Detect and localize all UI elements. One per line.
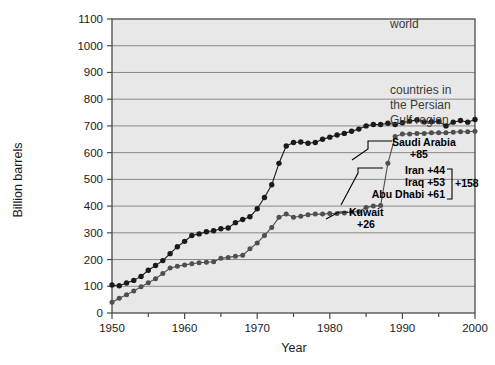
world-point (262, 195, 267, 200)
gulf-point (458, 129, 463, 134)
world-point (472, 117, 477, 122)
gulf-point (204, 260, 209, 265)
y-tick-label-400: 400 (84, 200, 103, 212)
annotation-abu-dhabi: Abu Dhabi +61 (372, 188, 445, 200)
y-tick-label-300: 300 (84, 227, 103, 239)
gulf-point (465, 129, 470, 134)
annotation-gulf-line2: the Persian (390, 98, 451, 112)
world-point (327, 134, 332, 139)
y-axis-title: Billion barrels (11, 142, 25, 217)
gulf-point (117, 296, 122, 301)
annotation-gulf-line1: countries in (390, 83, 451, 97)
world-point (225, 225, 230, 230)
gulf-point (320, 212, 325, 217)
annotation-sum: +158 (455, 177, 479, 189)
y-tick-label-1100: 1100 (78, 13, 103, 25)
gulf-point (298, 214, 303, 219)
gulf-point (436, 130, 441, 135)
gulf-point (110, 300, 115, 305)
gulf-point (342, 211, 347, 216)
y-tick-label-200: 200 (84, 254, 103, 266)
gulf-point (306, 212, 311, 217)
y-tick-label-800: 800 (84, 93, 103, 105)
world-point (465, 119, 470, 124)
world-point (371, 122, 376, 127)
world-point (160, 258, 165, 263)
world-point (276, 161, 281, 166)
world-point (204, 229, 209, 234)
world-point (182, 239, 187, 244)
gulf-point (131, 289, 136, 294)
world-point (342, 131, 347, 136)
world-point (131, 278, 136, 283)
gulf-point (327, 211, 332, 216)
x-tick-label-1990: 1990 (390, 322, 416, 334)
gulf-point (451, 130, 456, 135)
gulf-point (153, 276, 158, 281)
gulf-point (189, 261, 194, 266)
gulf-point (385, 161, 390, 166)
gulf-point (182, 262, 187, 267)
gulf-point (473, 129, 478, 134)
annotation-iraq: Iraq +53 (405, 176, 445, 188)
gulf-point (175, 264, 180, 269)
gulf-point (197, 260, 202, 265)
world-point (138, 274, 143, 279)
x-tick-label-1980: 1980 (317, 322, 343, 334)
x-tick-label-1950: 1950 (99, 322, 125, 334)
annotation-saudi-name: Saudi Arabia (392, 136, 456, 148)
chart-figure: 010020030040050060070080090010001100 195… (0, 0, 495, 365)
y-tick-label-0: 0 (97, 307, 103, 319)
world-point (255, 206, 260, 211)
x-axis-ticks: 195019601970198019902000 (99, 313, 488, 334)
annotation-saudi-value: +85 (410, 148, 428, 160)
gulf-point (160, 271, 165, 276)
gulf-point (168, 266, 173, 271)
world-point (298, 139, 303, 144)
gulf-point (247, 246, 252, 251)
world-point (175, 244, 180, 249)
x-tick-label-1970: 1970 (244, 322, 270, 334)
gulf-point (211, 259, 216, 264)
world-point (334, 132, 339, 137)
world-point (349, 129, 354, 134)
world-point (291, 140, 296, 145)
y-tick-label-500: 500 (84, 173, 103, 185)
gulf-point (269, 225, 274, 230)
y-tick-label-1000: 1000 (77, 40, 103, 52)
world-point (218, 226, 223, 231)
y-tick-label-700: 700 (84, 120, 103, 132)
world-point (313, 140, 318, 145)
gulf-point (429, 130, 434, 135)
world-point (451, 119, 456, 124)
world-point (247, 214, 252, 219)
gulf-point (218, 256, 223, 261)
x-axis-title: Year (281, 341, 306, 355)
y-tick-label-900: 900 (84, 66, 103, 78)
annotation-iran: Iran +44 (405, 164, 445, 176)
gulf-point (262, 233, 267, 238)
gulf-point (124, 292, 129, 297)
gulf-point (139, 284, 144, 289)
world-point (117, 283, 122, 288)
gulf-point (443, 130, 448, 135)
world-point (240, 217, 245, 222)
x-tick-label-1960: 1960 (172, 322, 198, 334)
gulf-point (233, 254, 238, 259)
gulf-point (255, 240, 260, 245)
y-tick-label-600: 600 (84, 147, 103, 159)
annotation-kuwait-name: Kuwait (349, 206, 384, 218)
gulf-point (313, 212, 318, 217)
gulf-point (226, 255, 231, 260)
oil-reserves-line-chart: 010020030040050060070080090010001100 195… (0, 0, 495, 365)
gulf-point (240, 253, 245, 258)
world-point (305, 141, 310, 146)
world-point (109, 282, 114, 287)
world-point (124, 280, 129, 285)
annotation-gulf-line3: Gulf region (390, 113, 449, 127)
gulf-point (146, 280, 151, 285)
world-point (153, 263, 158, 268)
y-axis-ticks: 010020030040050060070080090010001100 (77, 13, 112, 319)
annotation-kuwait-value: +26 (357, 218, 375, 230)
y-tick-label-100: 100 (84, 280, 103, 292)
